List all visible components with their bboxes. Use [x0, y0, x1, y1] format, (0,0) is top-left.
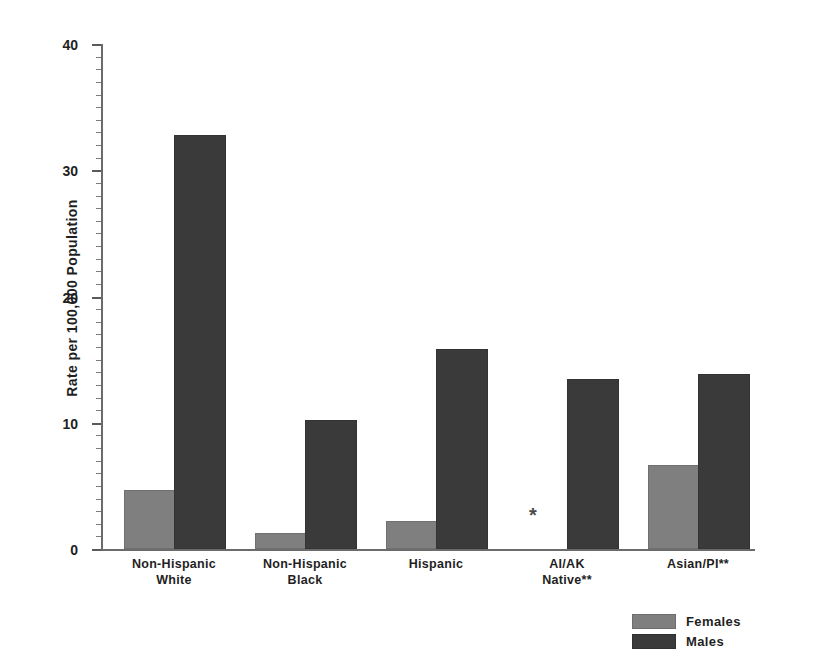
- y-tick-minor: [96, 271, 101, 272]
- y-tick-minor: [96, 221, 101, 222]
- y-tick-major: 20: [92, 297, 101, 299]
- y-tick-minor: [96, 398, 101, 399]
- y-tick-major: 30: [92, 170, 101, 172]
- chart-legend: Females Males: [632, 612, 782, 652]
- bar-males: [698, 374, 750, 549]
- y-tick-label: 30: [62, 163, 78, 179]
- y-tick-major: 40: [92, 44, 101, 46]
- y-tick-minor: [96, 145, 101, 146]
- bar-group: [124, 44, 224, 549]
- y-tick-minor: [96, 284, 101, 285]
- y-tick-minor: [96, 334, 101, 335]
- y-tick-minor: [96, 132, 101, 133]
- y-tick-minor: [96, 448, 101, 449]
- bar-group: [648, 44, 748, 549]
- bar-males: [174, 135, 226, 549]
- x-axis-label: Asian/PI**: [618, 556, 778, 572]
- y-tick-minor: [96, 511, 101, 512]
- y-tick-minor: [96, 120, 101, 121]
- x-axis-line: [101, 549, 755, 551]
- y-tick-minor: [96, 360, 101, 361]
- y-tick-minor: [96, 322, 101, 323]
- bar-females: [124, 490, 176, 549]
- y-tick-minor: [96, 69, 101, 70]
- bar-females: [648, 465, 700, 549]
- y-tick-minor: [96, 246, 101, 247]
- y-tick-minor: [96, 410, 101, 411]
- y-tick-minor: [96, 435, 101, 436]
- y-tick-major: 0: [92, 549, 101, 551]
- bar-group: [386, 44, 486, 549]
- legend-label-females: Females: [686, 614, 741, 629]
- y-tick-minor: [96, 536, 101, 537]
- y-tick-minor: [96, 309, 101, 310]
- bar-males: [567, 379, 619, 549]
- y-tick-minor: [96, 385, 101, 386]
- bar-females: [386, 521, 438, 550]
- y-tick-label: 10: [62, 416, 78, 432]
- y-tick-minor: [96, 183, 101, 184]
- y-tick-label: 20: [62, 290, 78, 306]
- bar-males: [305, 420, 357, 550]
- y-axis-line: [101, 44, 103, 549]
- bar-group: [255, 44, 355, 549]
- y-tick-minor: [96, 208, 101, 209]
- y-tick-minor: [96, 196, 101, 197]
- legend-label-males: Males: [686, 634, 724, 649]
- y-tick-minor: [96, 107, 101, 108]
- y-tick-minor: [96, 259, 101, 260]
- x-axis-label-line: Asian/PI**: [618, 556, 778, 572]
- y-tick-minor: [96, 499, 101, 500]
- y-tick-minor: [96, 473, 101, 474]
- y-tick-minor: [96, 524, 101, 525]
- suppressed-data-asterisk: *: [529, 505, 537, 525]
- bar-females: [255, 533, 307, 549]
- y-tick-minor: [96, 57, 101, 58]
- y-tick-minor: [96, 95, 101, 96]
- y-tick-minor: [96, 347, 101, 348]
- y-tick-minor: [96, 82, 101, 83]
- y-tick-minor: [96, 372, 101, 373]
- legend-swatch-females: [632, 614, 676, 629]
- bar-group: *: [517, 44, 617, 549]
- x-axis-label-line: Native**: [487, 572, 647, 588]
- y-tick-major: 10: [92, 423, 101, 425]
- y-tick-minor: [96, 233, 101, 234]
- bar-chart-figure: Rate per 100,000 Population 010203040 * …: [0, 0, 831, 671]
- legend-item-females: Females: [632, 612, 782, 630]
- y-tick-label: 0: [70, 542, 78, 558]
- y-tick-minor: [96, 158, 101, 159]
- plot-area: 010203040 * Non-HispanicWhiteNon-Hispani…: [101, 44, 755, 549]
- y-tick-label: 40: [62, 37, 78, 53]
- legend-item-males: Males: [632, 632, 782, 650]
- legend-swatch-males: [632, 634, 676, 649]
- bar-males: [436, 349, 488, 549]
- y-tick-minor: [96, 461, 101, 462]
- y-tick-minor: [96, 486, 101, 487]
- x-axis-label-line: Black: [225, 572, 385, 588]
